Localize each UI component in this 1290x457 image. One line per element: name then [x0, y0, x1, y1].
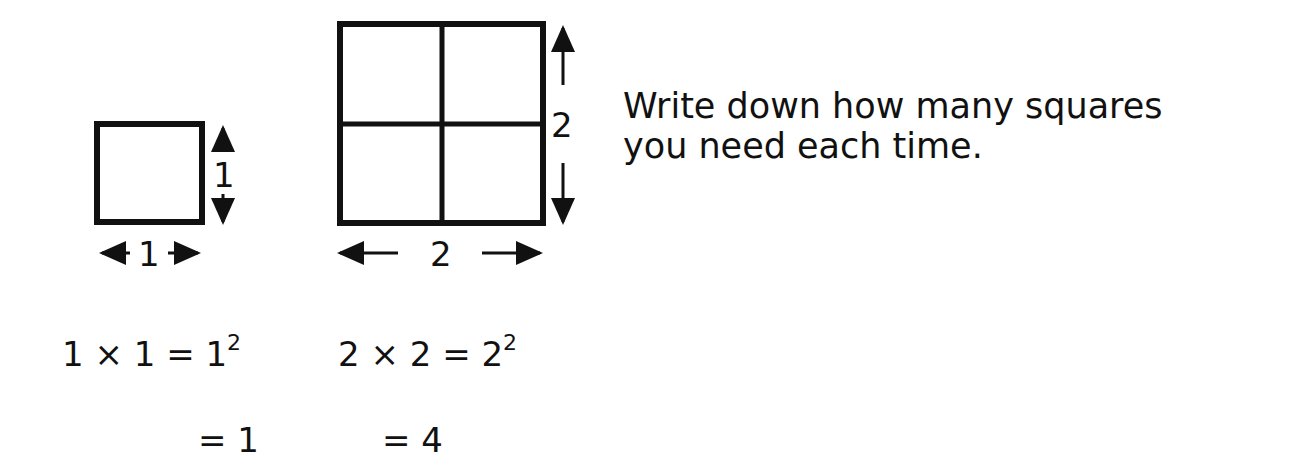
small-equation-result: = 1 [198, 420, 259, 457]
small-side-label-bottom: 1 [138, 237, 160, 271]
large-equation-exponent: 2 [503, 330, 517, 355]
large-square-grid [340, 24, 543, 223]
large-equation-expression: 2 × 2 = 2 [338, 334, 503, 374]
small-equation-line1: 1 × 1 = 12 [62, 334, 241, 374]
large-side-label-right: 2 [551, 108, 573, 142]
small-equation-exponent: 2 [227, 330, 241, 355]
instruction-text: Write down how many squares you need eac… [623, 86, 1162, 166]
large-equation-line1: 2 × 2 = 22 [338, 334, 517, 374]
large-equation-result: = 4 [382, 420, 443, 457]
instruction-line-1: Write down how many squares [623, 86, 1162, 126]
small-side-label-right: 1 [213, 158, 235, 192]
instruction-line-2: you need each time. [623, 126, 1162, 166]
small-square [97, 124, 202, 222]
small-equation-expression: 1 × 1 = 1 [62, 334, 227, 374]
diagram-canvas [0, 0, 1290, 457]
large-side-label-bottom: 2 [430, 237, 452, 271]
